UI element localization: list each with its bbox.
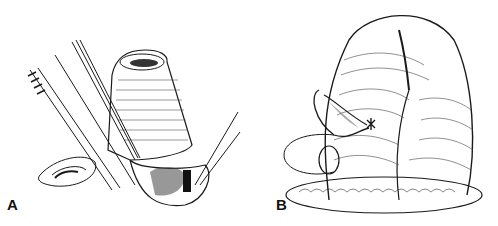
- surgical-illustration-a: [0, 0, 249, 226]
- surgical-illustration-b: [249, 0, 498, 226]
- panel-b-illustration: B: [249, 0, 498, 226]
- panel-a-illustration: A: [0, 0, 249, 226]
- panel-label-b: B: [276, 197, 287, 212]
- panel-label-a: A: [7, 197, 18, 212]
